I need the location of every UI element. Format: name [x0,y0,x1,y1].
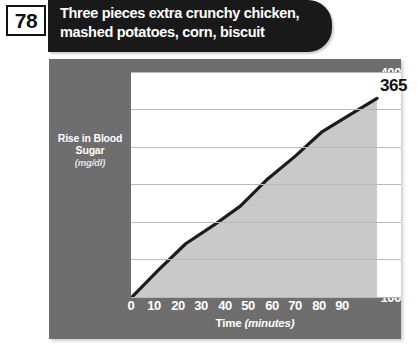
x-tick-60: 60 [260,298,284,313]
gridline-400 [131,72,401,73]
gridline-200 [131,222,401,223]
x-tick-80: 80 [307,298,331,313]
x-axis-unit: (minutes) [244,317,294,329]
x-tick-50: 50 [236,298,260,313]
y-axis-title: Rise in Blood Sugar (mg/dl) [51,133,129,169]
y-axis-unit: (mg/dl) [51,157,129,169]
end-value-label: 365 [380,76,407,96]
gridline-150 [131,259,401,260]
y-axis-title-text: Rise in Blood Sugar [58,132,123,156]
gridline-350 [131,109,401,110]
chart-panel: Rise in Blood Sugar (mg/dl) 400 350 300 … [49,59,401,339]
x-tick-0: 0 [119,298,143,313]
x-tick-90: 90 [330,298,354,313]
x-axis-title-text: Time [216,317,242,329]
blood-sugar-series [131,72,401,298]
x-axis-title: Time (minutes) [131,317,379,329]
meal-title-line-2: mashed potatoes, corn, biscuit [60,23,315,42]
page-number-box: 78 [6,5,46,36]
x-tick-40: 40 [213,298,237,313]
header-banner: 78 Three pieces extra crunchy chicken, m… [0,0,417,58]
plot-area [131,72,401,298]
area-fill [131,98,377,298]
x-tick-10: 10 [142,298,166,313]
meal-title: Three pieces extra crunchy chicken, mash… [60,4,315,42]
x-tick-30: 30 [189,298,213,313]
x-tick-20: 20 [166,298,190,313]
meal-title-line-1: Three pieces extra crunchy chicken, [60,4,315,23]
x-tick-70: 70 [283,298,307,313]
gridline-250 [131,184,401,185]
title-banner: Three pieces extra crunchy chicken, mash… [48,0,332,52]
gridline-300 [131,147,401,148]
